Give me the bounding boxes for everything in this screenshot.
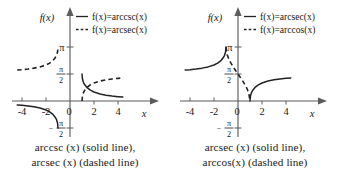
legend-label-solid-right: f(x)=arcsec(x) bbox=[260, 11, 315, 23]
legend-label-solid-left: f(x)=arccsc(x) bbox=[92, 11, 147, 23]
x-axis-left bbox=[12, 97, 159, 104]
x-axis-right bbox=[180, 97, 327, 104]
y-tick-label-pi-over-2-left: π 2 bbox=[57, 65, 66, 85]
caption-left-line2: arcsec (x) (dashed line) bbox=[0, 155, 170, 170]
x-tick-label-neg4-left: -4 bbox=[18, 106, 27, 117]
caption-left-line1: arccsc (x) (solid line), bbox=[0, 140, 170, 155]
x-tick-label-0-right: 0 bbox=[234, 106, 239, 117]
legend-label-dashed-left: f(x)=arcsec(x) bbox=[92, 24, 147, 36]
y-tick-label-neg-pi-over-2-right: − π 2 bbox=[217, 119, 234, 139]
x-tick-label-0-left: 0 bbox=[66, 106, 71, 117]
legend-label-dashed-right: f(x)=arccos(x) bbox=[260, 24, 315, 36]
y-axis-left bbox=[66, 7, 73, 137]
x-tick-label-4-left: 4 bbox=[115, 106, 121, 117]
svg-text:−: − bbox=[217, 124, 222, 133]
y-axis-right bbox=[234, 7, 241, 137]
svg-text:π: π bbox=[227, 119, 232, 128]
x-tick-label-4-right: 4 bbox=[283, 106, 289, 117]
curve-solid bbox=[185, 47, 226, 70]
y-tick-label-pi-right: π bbox=[227, 42, 233, 53]
svg-text:2: 2 bbox=[227, 76, 231, 85]
svg-text:2: 2 bbox=[59, 130, 63, 139]
y-tick-label-pi-left: π bbox=[59, 42, 65, 53]
y-axis-label-left: f(x) bbox=[40, 12, 55, 24]
legend-right: f(x)=arcsec(x) f(x)=arccos(x) bbox=[244, 11, 315, 36]
curve-solid bbox=[250, 78, 291, 101]
svg-text:−: − bbox=[49, 124, 54, 133]
figure-root: f(x) x -4 -2 0 2 4 π π 2 − bbox=[0, 0, 340, 187]
chart-svg-right: f(x) x -4 -2 0 2 4 π π 2 − π 2 bbox=[170, 0, 340, 140]
curve-dashed bbox=[82, 78, 123, 101]
x-tick-label-neg4-right: -4 bbox=[186, 106, 195, 117]
curve-dashed bbox=[17, 47, 58, 70]
caption-left: arccsc (x) (solid line), arcsec (x) (das… bbox=[0, 140, 170, 170]
x-axis-label-right: x bbox=[309, 108, 315, 119]
svg-text:π: π bbox=[59, 65, 64, 74]
svg-text:π: π bbox=[227, 65, 232, 74]
y-tick-label-pi-over-2-right: π 2 bbox=[225, 65, 234, 85]
panel-right: f(x) x -4 -2 0 2 4 π π 2 − π 2 bbox=[170, 0, 340, 187]
plot-area-left: f(x) x -4 -2 0 2 4 π π 2 − bbox=[0, 0, 170, 140]
chart-svg-left: f(x) x -4 -2 0 2 4 π π 2 − bbox=[0, 0, 170, 140]
panel-left: f(x) x -4 -2 0 2 4 π π 2 − bbox=[0, 0, 170, 187]
plot-area-right: f(x) x -4 -2 0 2 4 π π 2 − π 2 bbox=[170, 0, 340, 140]
x-tick-label-2-left: 2 bbox=[91, 106, 96, 117]
caption-right-line2: arccos(x) (dashed line) bbox=[170, 155, 340, 170]
caption-right-line1: arcsec (x) (solid line), bbox=[170, 140, 340, 155]
x-axis-label-left: x bbox=[141, 108, 147, 119]
x-tick-label-neg2-right: -2 bbox=[210, 106, 219, 117]
legend-left: f(x)=arccsc(x) f(x)=arcsec(x) bbox=[76, 11, 147, 36]
svg-text:2: 2 bbox=[59, 76, 63, 85]
svg-text:π: π bbox=[59, 119, 64, 128]
svg-text:2: 2 bbox=[227, 130, 231, 139]
caption-right: arcsec (x) (solid line), arccos(x) (dash… bbox=[170, 140, 340, 170]
y-axis-label-right: f(x) bbox=[208, 12, 223, 24]
x-tick-label-2-right: 2 bbox=[259, 106, 264, 117]
